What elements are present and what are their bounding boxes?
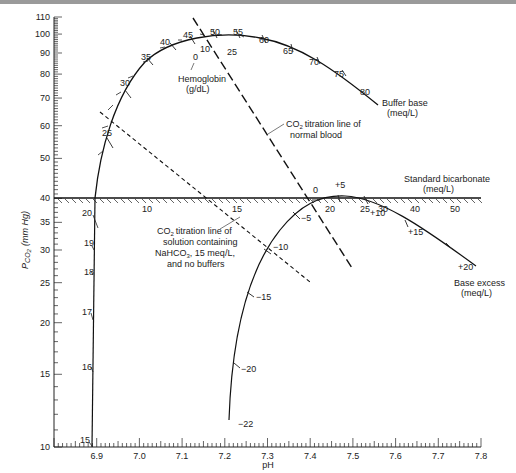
svg-text:17: 17 (82, 307, 92, 317)
std-bicarb-label-2: (meq/L) (423, 184, 454, 194)
svg-text:−22: −22 (238, 419, 253, 429)
svg-text:16: 16 (82, 362, 92, 372)
x-tick-label: 6.9 (90, 451, 103, 461)
nomogram-chart: 101520253035405060708090100110 6.97.07.1… (0, 0, 516, 473)
svg-text:−5: −5 (301, 213, 311, 223)
svg-text:19: 19 (84, 238, 94, 248)
x-axis-ticks (54, 438, 481, 447)
svg-text:−20: −20 (241, 364, 256, 374)
svg-text:+5: +5 (335, 180, 345, 190)
y-axis-ticks (54, 17, 62, 447)
svg-text:40: 40 (410, 204, 420, 214)
x-tick-label: 7.7 (432, 451, 445, 461)
svg-text:15: 15 (80, 435, 90, 445)
svg-text:PCO2(mm Hg): PCO2(mm Hg) (20, 211, 32, 269)
hemoglobin-label-2: (g/dL) (186, 84, 210, 94)
nahco3-titration-line: CO2titration line of solution containing… (100, 112, 310, 282)
svg-text:+20: +20 (458, 262, 473, 272)
svg-text:NaHCO3, 15 meq/L,: NaHCO3, 15 meq/L, (155, 248, 235, 259)
svg-text:−15: −15 (256, 292, 271, 302)
y-tick-label: 70 (40, 93, 50, 103)
y-tick-label: 50 (40, 153, 50, 163)
svg-text:55: 55 (233, 27, 243, 37)
svg-text:25: 25 (227, 47, 237, 57)
y-tick-label: 25 (40, 278, 50, 288)
svg-text:−10: −10 (273, 242, 288, 252)
svg-text:+10: +10 (370, 208, 385, 218)
svg-text:50: 50 (210, 27, 220, 37)
buffer-base-label-1: Buffer base (382, 98, 428, 108)
svg-text:45: 45 (183, 30, 193, 40)
svg-text:80: 80 (360, 87, 370, 97)
base-excess-label-1: Base excess (454, 278, 506, 288)
std-bicarb-label-1: Standard bicarbonate (404, 174, 490, 184)
left-vertical-scale: 20 19 18 17 16 15 (80, 198, 98, 447)
y-axis-title: PCO2(mm Hg) (20, 211, 32, 269)
svg-text:60: 60 (259, 35, 269, 45)
svg-text:30: 30 (120, 78, 130, 88)
svg-text:10: 10 (200, 44, 210, 54)
y-tick-label: 30 (40, 245, 50, 255)
buffer-base-curve: 25 30 35 40 45 50 55 60 65 70 75 80 0 10… (95, 27, 428, 198)
svg-text:0: 0 (193, 52, 198, 62)
svg-text:25: 25 (360, 204, 370, 214)
svg-text:10: 10 (142, 204, 152, 214)
x-axis-tick-labels: 6.97.07.17.27.37.47.57.67.77.8 (90, 451, 487, 461)
svg-text:CO2titration line of: CO2titration line of (157, 226, 232, 237)
svg-text:CO2titration line of: CO2titration line of (286, 119, 361, 130)
hemoglobin-label-1: Hemoglobin (178, 74, 226, 84)
nahco3-label-4: and no buffers (167, 259, 225, 269)
x-tick-label: 7.1 (176, 451, 189, 461)
svg-text:+15: +15 (408, 227, 423, 237)
buffer-base-label-2: (meq/L) (387, 108, 418, 118)
svg-text:15: 15 (232, 204, 242, 214)
x-tick-label: 7.0 (133, 451, 146, 461)
base-excess-curve: 0 +5 +10 +15 +20 −5 −10 −15 −20 −22 Base… (229, 180, 506, 429)
y-tick-label: 20 (40, 318, 50, 328)
y-tick-label: 15 (40, 369, 50, 379)
svg-text:0: 0 (313, 185, 318, 195)
y-tick-label: 40 (40, 193, 50, 203)
y-axis-tick-labels: 101520253035405060708090100110 (35, 12, 50, 452)
x-axis-title: pH (262, 460, 274, 470)
nahco3-label-2: solution containing (163, 237, 238, 247)
svg-text:35: 35 (141, 52, 151, 62)
svg-text:20: 20 (82, 208, 92, 218)
svg-text:65: 65 (283, 46, 293, 56)
svg-text:70: 70 (309, 57, 319, 67)
svg-text:18: 18 (84, 267, 94, 277)
y-tick-label: 35 (40, 217, 50, 227)
x-tick-label: 7.2 (219, 451, 232, 461)
base-excess-label-2: (meq/L) (461, 288, 492, 298)
svg-text:40: 40 (160, 37, 170, 47)
svg-text:25: 25 (102, 128, 112, 138)
normal-blood-label-2: normal blood (290, 130, 342, 140)
x-tick-label: 7.6 (389, 451, 402, 461)
y-tick-label: 80 (40, 69, 50, 79)
y-tick-label: 60 (40, 121, 50, 131)
x-tick-label: 7.4 (304, 451, 317, 461)
svg-text:20: 20 (325, 204, 335, 214)
svg-text:75: 75 (334, 69, 344, 79)
x-tick-label: 7.8 (475, 451, 488, 461)
y-tick-label: 100 (35, 29, 50, 39)
y-tick-label: 90 (40, 48, 50, 58)
standard-bicarbonate-scale: 10 15 20 25 30 40 50 (54, 198, 482, 214)
y-tick-label: 10 (40, 442, 50, 452)
y-tick-label: 110 (36, 12, 50, 22)
x-tick-label: 7.5 (347, 451, 360, 461)
svg-text:50: 50 (450, 204, 460, 214)
